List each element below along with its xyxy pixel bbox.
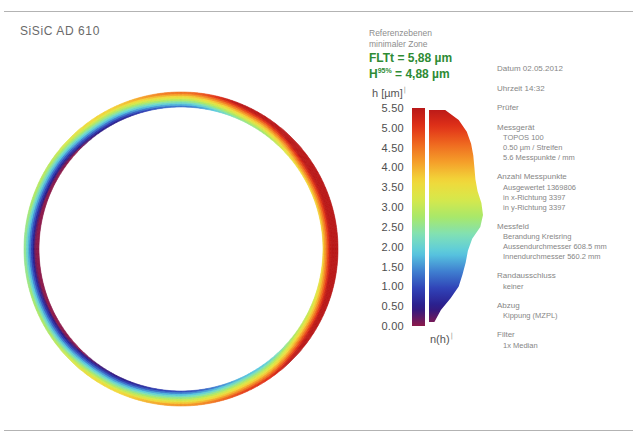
reference-line-1: Referenzebenen: [369, 28, 494, 39]
page-rule-bottom: [4, 430, 633, 431]
meta-group-sub: in y-Richtung 3397: [497, 203, 633, 213]
scale-tick: 3.50: [381, 181, 404, 193]
metric-h95-sup: 95%: [378, 67, 392, 74]
meta-group-head: Datum 02.05.2012: [497, 64, 633, 75]
scale-unit-tick-icon: ∣: [403, 86, 407, 93]
scale-tick: 0.50: [381, 300, 404, 312]
scale-tick: 1.00: [381, 280, 404, 292]
reference-line-2: minimaler Zone: [369, 39, 494, 50]
measurement-metadata: Datum 02.05.2012Uhrzeit 14:32PrüferMessg…: [497, 64, 633, 360]
scale-unit-label: h [µm]∣: [372, 86, 407, 99]
meta-group-sub: keiner: [497, 282, 633, 292]
meta-group: AbzugKippung (MZPL): [497, 301, 633, 322]
scale-unit-text: h [µm]: [372, 87, 403, 99]
meta-group-sub: Berandung Kreisring: [497, 232, 633, 242]
metric-h95-value: 4,88 µm: [405, 67, 449, 81]
ring-band-group: [24, 92, 338, 406]
meta-group: Prüfer: [497, 103, 633, 114]
colorbar-histogram-svg: [410, 108, 488, 326]
meta-group: Randausschlusskeiner: [497, 271, 633, 292]
metric-fltt: FLTt = 5,88 µm: [369, 51, 494, 66]
metric-fltt-value: 5,88 µm: [408, 51, 452, 65]
meta-group-sub: TOPOS 100: [497, 133, 633, 143]
legend-reference: Referenzebenen minimaler Zone FLTt = 5,8…: [369, 28, 494, 82]
colorbar-and-histogram: [410, 108, 488, 326]
scale-tick: 4.00: [381, 161, 404, 173]
metric-fltt-name: FLTt: [369, 51, 394, 65]
meta-group-sub: Kippung (MZPL): [497, 311, 633, 321]
page-rule-top: [4, 11, 633, 12]
meta-group: Datum 02.05.2012: [497, 64, 633, 75]
meta-group-sub: in x-Richtung 3397: [497, 193, 633, 203]
histogram-axis-label: n(h)∣: [430, 332, 454, 345]
meta-group: Uhrzeit 14:32: [497, 84, 633, 95]
scale-tick: 2.50: [381, 221, 404, 233]
meta-group-head: Randausschluss: [497, 271, 633, 282]
scale-tick: 5.50: [381, 102, 404, 114]
meta-group: Anzahl MesspunkteAusgewertet 1369806in x…: [497, 172, 633, 213]
meta-group: MessgerätTOPOS 1000.50 µm / Streifen5.6 …: [497, 123, 633, 164]
page-title: SiSiC AD 610: [20, 24, 100, 38]
meta-group-sub: Ausgewertet 1369806: [497, 183, 633, 193]
scale-tick: 4.50: [381, 142, 404, 154]
scale-tick: 5.00: [381, 122, 404, 134]
meta-group-head: Prüfer: [497, 103, 633, 114]
scale-tick: 3.00: [381, 201, 404, 213]
meta-group-head: Abzug: [497, 301, 633, 312]
metric-h95: H95% = 4,88 µm: [369, 67, 494, 82]
meta-group-head: Anzahl Messpunkte: [497, 172, 633, 183]
meta-group: Filter1x Median: [497, 330, 633, 351]
ring-flatness-map: [16, 84, 346, 414]
meta-group-sub: 0.50 µm / Streifen: [497, 143, 633, 153]
metric-fltt-equals: =: [397, 51, 404, 65]
scale-tick: 2.00: [381, 241, 404, 253]
histogram-tick-icon: ∣: [450, 332, 454, 339]
colorbar: [412, 108, 425, 326]
meta-group-head: Uhrzeit 14:32: [497, 84, 633, 95]
meta-group-sub: Innendurchmesser 560.2 mm: [497, 252, 633, 262]
meta-group: MessfeldBerandung KreisringAussendurchme…: [497, 222, 633, 263]
meta-group-sub: 1x Median: [497, 341, 633, 351]
ring-plot-svg: [16, 84, 346, 414]
metric-h95-equals: =: [395, 67, 402, 81]
meta-group-head: Filter: [497, 330, 633, 341]
meta-group-head: Messfeld: [497, 222, 633, 233]
scale-tick: 1.50: [381, 261, 404, 273]
meta-group-sub: 5.6 Messpunkte / mm: [497, 153, 633, 163]
scale-tick: 0.00: [381, 320, 404, 332]
histogram-axis-text: n(h): [430, 333, 450, 345]
meta-group-head: Messgerät: [497, 123, 633, 134]
height-scale-block: h [µm]∣ 5.505.004.504.003.503.002.502.00…: [362, 86, 492, 346]
metric-h95-name: H: [369, 67, 378, 81]
meta-group-sub: Aussendurchmesser 608.5 mm: [497, 242, 633, 252]
